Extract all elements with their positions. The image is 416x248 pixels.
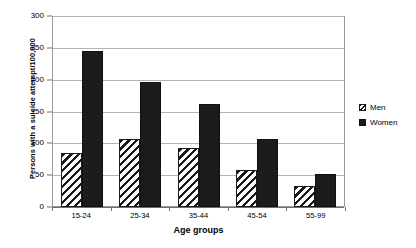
x-axis-labels: 15-2425-3435-4445-5455-99 (52, 211, 345, 220)
bar-women-55-99 (315, 174, 336, 207)
legend-item-men[interactable]: Men (359, 101, 397, 113)
legend-label-men: Men (370, 103, 386, 112)
x-axis-title: Age groups (52, 225, 345, 235)
bar-groups (53, 17, 344, 207)
x-tick-label-15-24: 15-24 (52, 211, 111, 220)
bar-men-25-34 (119, 139, 140, 207)
y-axis-ticks: 300250200150100500 (0, 16, 52, 207)
y-tick-label-150: 150 (31, 108, 44, 116)
y-tick-label-250: 250 (31, 44, 44, 52)
bar-women-25-34 (140, 82, 161, 207)
x-tick-label-45-54: 45-54 (228, 211, 287, 220)
bar-group-55-99 (286, 17, 344, 207)
y-tick-label-200: 200 (31, 76, 44, 84)
bar-men-15-24 (61, 153, 82, 207)
legend: MenWomen (359, 101, 397, 131)
legend-swatch-men-icon (359, 104, 366, 111)
y-tick-label-300: 300 (31, 12, 44, 20)
x-tick-label-25-34: 25-34 (111, 211, 170, 220)
x-tick-label-35-44: 35-44 (169, 211, 228, 220)
y-tick-label-100: 100 (31, 139, 44, 147)
legend-label-women: Women (370, 118, 397, 127)
bar-women-15-24 (82, 51, 103, 207)
bar-group-45-54 (228, 17, 286, 207)
bar-group-25-34 (111, 17, 169, 207)
bar-women-45-54 (257, 139, 278, 207)
legend-swatch-women-icon (359, 119, 366, 126)
bar-women-35-44 (199, 104, 220, 207)
bar-group-15-24 (53, 17, 111, 207)
x-tick-mark-5 (345, 207, 346, 211)
bar-men-45-54 (236, 170, 257, 207)
y-tick-label-50: 50 (35, 171, 44, 179)
y-tick-label-0: 0 (40, 203, 44, 211)
legend-item-women[interactable]: Women (359, 116, 397, 128)
bar-group-35-44 (169, 17, 227, 207)
bar-chart: Persons with a suicide attempt/100,000 3… (0, 0, 416, 248)
bar-men-35-44 (178, 148, 199, 207)
bar-men-55-99 (294, 186, 315, 207)
x-tick-label-55-99: 55-99 (286, 211, 345, 220)
